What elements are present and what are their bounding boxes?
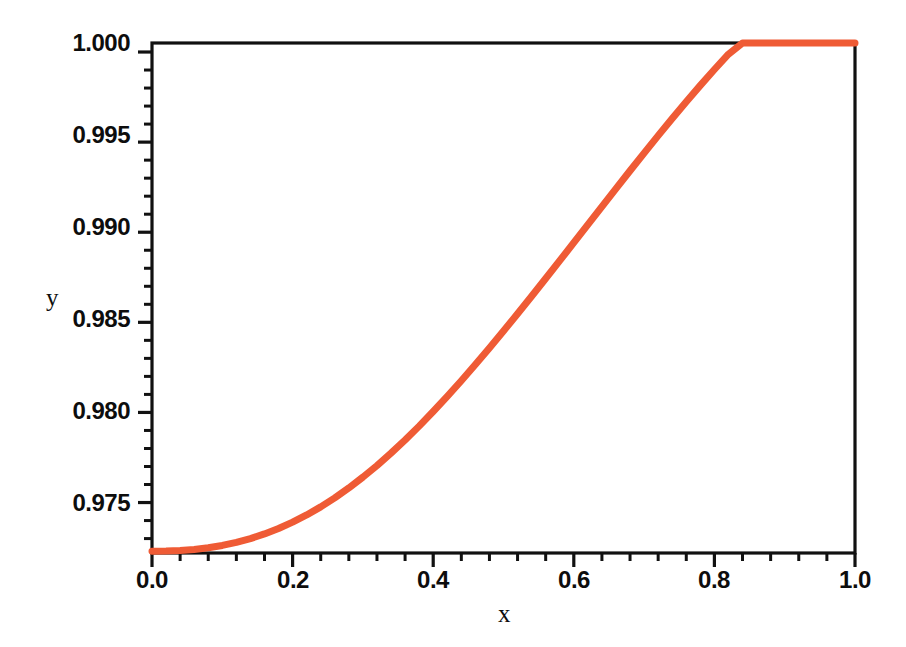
xtick-label-0: 0.0 [136,566,168,594]
xtick-label-3: 0.6 [558,566,590,594]
ytick-label-4: 0.995 [8,121,130,149]
plot-svg [0,0,906,647]
axes-frame [152,43,855,553]
xtick-label-5: 1.0 [839,566,871,594]
x-axis-title: x [498,600,511,628]
figure-canvas: 1.000 0.995 0.990 0.985 0.980 0.975 0.0 … [0,0,906,647]
series-line-0 [152,43,855,551]
ytick-label-1: 0.980 [8,397,130,425]
xtick-label-4: 0.8 [698,566,730,594]
ytick-label-0: 0.975 [8,489,130,517]
xtick-label-2: 0.4 [417,566,449,594]
ytick-label-2: 0.985 [8,305,130,333]
data-curve [152,43,855,551]
y-axis-title: y [46,284,59,312]
ytick-label-5: 1.000 [8,29,130,57]
ytick-label-3: 0.990 [8,213,130,241]
xtick-label-1: 0.2 [277,566,309,594]
axis-ticks [138,52,855,567]
